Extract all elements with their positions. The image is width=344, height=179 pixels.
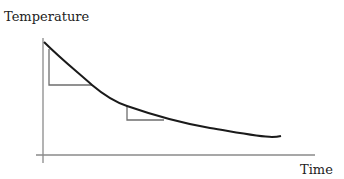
x-axis-label: Time bbox=[300, 162, 333, 177]
cooling-curve bbox=[44, 42, 281, 137]
cooling-curve-diagram: Temperature Time bbox=[0, 0, 344, 179]
diagram-canvas bbox=[0, 0, 344, 179]
y-axis-label: Temperature bbox=[4, 9, 89, 24]
